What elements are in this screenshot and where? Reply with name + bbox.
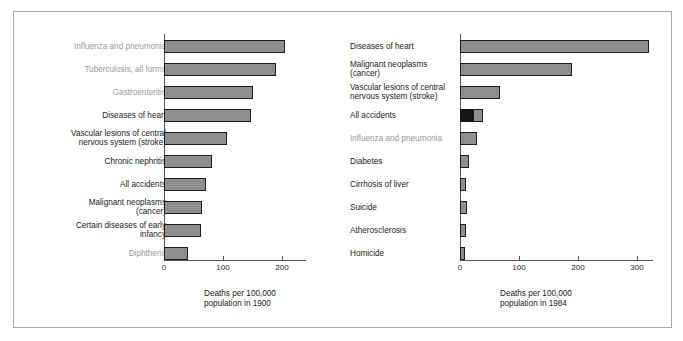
- bar-segment: [460, 109, 473, 122]
- bar: [460, 86, 500, 99]
- category-label: All accidents: [350, 111, 470, 121]
- chart-panel-1984: Diseases of heartMalignant neoplasms (ca…: [344, 12, 673, 327]
- category-label: Influenza and pneumonia: [38, 42, 166, 52]
- bar: [164, 247, 188, 260]
- x-tick-label-0-1900: 0: [162, 263, 166, 272]
- x-tick-label-200-1900: 200: [275, 263, 288, 272]
- x-axis-1984: [460, 260, 653, 261]
- bar: [164, 86, 253, 99]
- bar: [460, 201, 467, 214]
- bar: [164, 178, 206, 191]
- category-label: Influenza and pneumonia: [350, 134, 470, 144]
- bar: [164, 40, 285, 53]
- bar: [460, 40, 649, 53]
- bar: [460, 178, 466, 191]
- category-label: Malignant neoplasms (cancer): [350, 60, 470, 79]
- bar: [164, 132, 227, 145]
- bar: [164, 109, 251, 122]
- x-tick-100-1984: [519, 256, 520, 261]
- category-label: All accidents: [38, 180, 166, 190]
- bar: [164, 63, 276, 76]
- category-label: Vascular lesions of central nervous syst…: [38, 129, 166, 148]
- plot-area-1984: 0100200300 Deaths per 100,000 population…: [460, 12, 673, 327]
- category-label: Certain diseases of early infancy: [38, 221, 166, 240]
- category-label: Homicide: [350, 249, 470, 259]
- x-axis-caption-1900: Deaths per 100,000 population in 1900: [204, 289, 276, 309]
- x-axis-1900: [164, 260, 306, 261]
- x-tick-label-100-1900: 100: [216, 263, 229, 272]
- bar: [460, 224, 466, 237]
- category-label: Diphtheria: [38, 249, 166, 259]
- x-tick-label-300-1984: 300: [630, 263, 643, 272]
- bar: [164, 201, 202, 214]
- bar: [460, 155, 469, 168]
- bar: [164, 155, 212, 168]
- category-label: Gastroenteritis: [38, 88, 166, 98]
- bar: [164, 224, 201, 237]
- category-label: Diabetes: [350, 157, 470, 167]
- category-label: Tuberculosis, all forms: [38, 65, 166, 75]
- category-label: Malignant neoplasms (cancer): [38, 198, 166, 217]
- x-tick-300-1984: [637, 256, 638, 261]
- category-label: Atherosclerosis: [350, 226, 470, 236]
- plot-area-1900: 0100200 Deaths per 100,000 population in…: [164, 12, 344, 327]
- x-axis-caption-1984: Deaths per 100,000 population in 1984: [500, 289, 572, 309]
- x-tick-label-100-1984: 100: [512, 263, 525, 272]
- chart-panel-1900: Influenza and pneumoniaTuberculosis, all…: [14, 12, 344, 327]
- x-tick-label-200-1984: 200: [571, 263, 584, 272]
- bar: [460, 132, 477, 145]
- x-tick-200-1984: [578, 256, 579, 261]
- chart-frame: Influenza and pneumoniaTuberculosis, all…: [13, 11, 672, 328]
- x-tick-200-1900: [282, 256, 283, 261]
- category-label: Chronic nephritis: [38, 157, 166, 167]
- bar: [460, 247, 465, 260]
- bar-segment: [473, 109, 483, 122]
- x-tick-label-0-1984: 0: [458, 263, 462, 272]
- category-label: Suicide: [350, 203, 470, 213]
- category-label: Diseases of heart: [38, 111, 166, 121]
- category-label: Diseases of heart: [350, 42, 470, 52]
- category-label: Vascular lesions of central nervous syst…: [350, 83, 470, 102]
- x-tick-100-1900: [223, 256, 224, 261]
- category-label: Cirrhosis of liver: [350, 180, 470, 190]
- bar: [460, 63, 572, 76]
